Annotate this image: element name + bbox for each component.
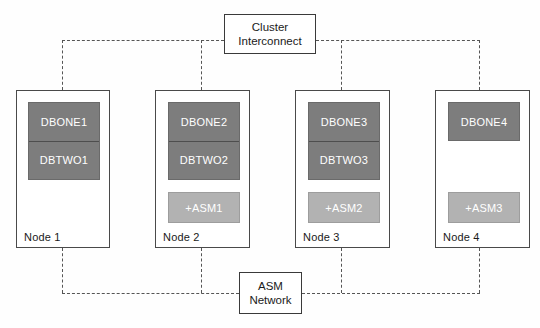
asm-network-drop-node-2 bbox=[201, 248, 202, 293]
db-instance-dbtwo1[interactable]: DBTWO1 bbox=[29, 141, 99, 180]
asm-instance-asm1[interactable]: +ASM1 bbox=[168, 192, 240, 223]
asm-network-drop-node-1 bbox=[62, 248, 63, 293]
db-instance-dbone1[interactable]: DBONE1 bbox=[29, 103, 99, 141]
asm-network-label-line2: Network bbox=[249, 294, 291, 306]
cluster-interconnect-drop-node-4 bbox=[479, 40, 480, 90]
node-label-1: Node 1 bbox=[24, 231, 61, 243]
db-instance-dbone2[interactable]: DBONE2 bbox=[169, 103, 239, 141]
asm-network-bus-left bbox=[62, 293, 239, 294]
cluster-interconnect-drop-node-1 bbox=[62, 40, 63, 90]
cluster-interconnect-label: Cluster Interconnect bbox=[238, 20, 301, 48]
cluster-interconnect-drop-node-2 bbox=[201, 40, 202, 90]
db-instance-dbtwo2[interactable]: DBTWO2 bbox=[169, 141, 239, 180]
db-instance-dbone3[interactable]: DBONE3 bbox=[309, 103, 379, 141]
cluster-interconnect-box[interactable]: Cluster Interconnect bbox=[224, 14, 316, 54]
asm-network-box[interactable]: ASM Network bbox=[239, 272, 302, 314]
asm-network-bus-right bbox=[302, 293, 480, 294]
diagram-canvas: Cluster Interconnect Node 1 DBONE1 DBTWO… bbox=[0, 0, 540, 328]
db-instance-stack-4[interactable]: DBONE4 bbox=[448, 102, 520, 141]
db-instance-stack-2[interactable]: DBONE2 DBTWO2 bbox=[168, 102, 240, 180]
db-instance-dbone4[interactable]: DBONE4 bbox=[449, 103, 519, 140]
cluster-interconnect-label-line1: Cluster bbox=[252, 21, 288, 33]
asm-network-label-line1: ASM bbox=[258, 280, 283, 292]
cluster-interconnect-label-line2: Interconnect bbox=[238, 35, 301, 47]
cluster-interconnect-bus-left bbox=[62, 40, 224, 41]
node-label-4: Node 4 bbox=[443, 231, 480, 243]
db-instance-stack-1[interactable]: DBONE1 DBTWO1 bbox=[28, 102, 100, 180]
asm-instance-asm3[interactable]: +ASM3 bbox=[448, 192, 520, 223]
node-label-2: Node 2 bbox=[163, 231, 200, 243]
node-label-3: Node 3 bbox=[303, 231, 340, 243]
db-instance-dbtwo3[interactable]: DBTWO3 bbox=[309, 141, 379, 180]
cluster-interconnect-drop-node-3 bbox=[341, 40, 342, 90]
asm-instance-asm2[interactable]: +ASM2 bbox=[308, 192, 380, 223]
db-instance-stack-3[interactable]: DBONE3 DBTWO3 bbox=[308, 102, 380, 180]
asm-network-drop-node-3 bbox=[341, 248, 342, 293]
asm-network-label: ASM Network bbox=[249, 279, 291, 307]
asm-network-drop-node-4 bbox=[479, 248, 480, 293]
